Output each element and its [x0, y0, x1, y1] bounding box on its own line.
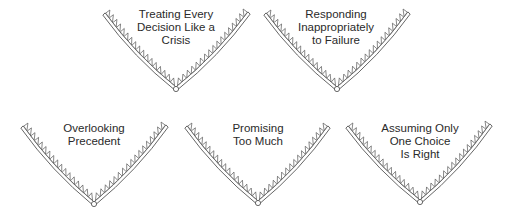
label-line: Precedent	[63, 135, 124, 148]
label-line: Decision Like a	[137, 21, 215, 34]
pitfalls-diagram	[0, 0, 515, 218]
label-line: Responding	[298, 8, 374, 21]
vertex-node-icon	[91, 201, 96, 206]
label-line: One Choice	[381, 135, 458, 148]
label-promising: PromisingToo Much	[232, 122, 283, 148]
vertex-node-icon	[417, 199, 422, 204]
label-crisis: Treating EveryDecision Like aCrisis	[137, 8, 215, 47]
vertex-node-icon	[255, 200, 260, 205]
vertex-node-icon	[173, 86, 178, 91]
label-failure: RespondingInappropriatelyto Failure	[298, 8, 374, 47]
label-line: to Failure	[298, 34, 374, 47]
label-line: Too Much	[232, 135, 283, 148]
label-line: Promising	[232, 122, 283, 135]
vertex-node-icon	[334, 86, 339, 91]
label-line: Is Right	[381, 148, 458, 161]
label-line: Assuming Only	[381, 122, 458, 135]
label-one-choice: Assuming OnlyOne ChoiceIs Right	[381, 122, 458, 161]
label-line: Inappropriately	[298, 21, 374, 34]
label-line: Crisis	[137, 34, 215, 47]
label-line: Treating Every	[137, 8, 215, 21]
label-precedent: OverlookingPrecedent	[63, 122, 124, 148]
label-line: Overlooking	[63, 122, 124, 135]
